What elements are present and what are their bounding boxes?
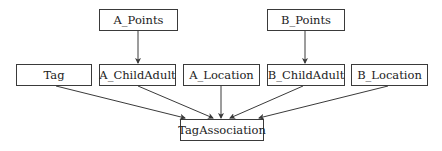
node-a-points: A_Points bbox=[99, 9, 178, 31]
diagram-canvas: A_Points B_Points Tag A_ChildAdult A_Loc… bbox=[0, 0, 442, 151]
node-b-childadult: B_ChildAdult bbox=[267, 64, 345, 86]
node-tagassociation: TagAssociation bbox=[180, 119, 264, 141]
node-tag: Tag bbox=[16, 64, 92, 86]
edge-b_location-to-tagassociation bbox=[259, 86, 388, 118]
edge-a_childadult-to-tagassociation bbox=[138, 86, 213, 118]
node-label: B_ChildAdult bbox=[268, 68, 345, 82]
node-label: B_Location bbox=[357, 68, 422, 82]
node-label: A_ChildAdult bbox=[99, 68, 175, 82]
node-label: TagAssociation bbox=[178, 123, 266, 137]
node-a-location: A_Location bbox=[183, 64, 260, 86]
node-a-childadult: A_ChildAdult bbox=[99, 64, 176, 86]
node-label: A_Points bbox=[114, 13, 164, 27]
node-label: A_Location bbox=[189, 68, 254, 82]
node-b-points: B_Points bbox=[267, 9, 345, 31]
node-label: Tag bbox=[44, 68, 65, 82]
edge-tag-to-tagassociation bbox=[56, 86, 185, 118]
node-b-location: B_Location bbox=[351, 64, 428, 86]
node-label: B_Points bbox=[281, 13, 331, 27]
edge-b_childadult-to-tagassociation bbox=[230, 86, 303, 118]
